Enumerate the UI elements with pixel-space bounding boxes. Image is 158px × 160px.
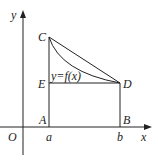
point-C-label: C xyxy=(38,30,47,44)
diagram: y x O C E A D B a b y=f(x) xyxy=(0,0,158,160)
x-axis-label: x xyxy=(140,130,147,144)
point-A-label: A xyxy=(38,113,47,127)
point-B-label: B xyxy=(123,113,131,127)
point-D-label: D xyxy=(122,77,132,91)
point-E-label: E xyxy=(37,77,46,91)
origin-label: O xyxy=(8,130,17,144)
tick-a-label: a xyxy=(46,130,52,144)
y-axis-label: y xyxy=(10,8,17,22)
y-axis-arrow-icon xyxy=(20,10,26,18)
curve-label: y=f(x) xyxy=(50,69,81,83)
tick-b-label: b xyxy=(117,130,123,144)
